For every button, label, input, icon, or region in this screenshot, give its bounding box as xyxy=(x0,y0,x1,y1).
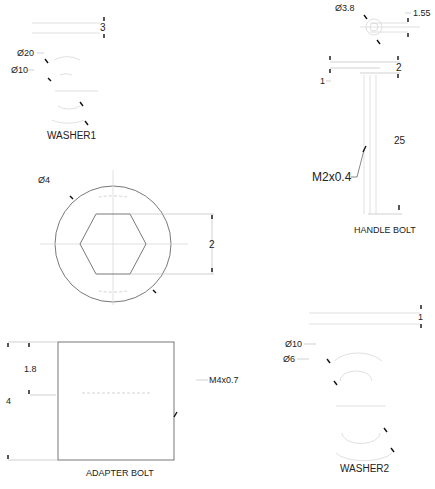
leader-arrow-icon xyxy=(174,412,177,417)
handle-bolt-head-height-dim: 2 xyxy=(396,62,402,73)
handle-bolt-thread-callout: M2x0.4 xyxy=(312,170,352,184)
handle-bolt-length-dim: 25 xyxy=(394,135,406,146)
dim-arrow-icon xyxy=(153,290,156,293)
dim-arrow-icon xyxy=(391,448,394,452)
washer2-thickness-dim: 1 xyxy=(418,312,423,322)
dim-arrow-icon xyxy=(334,381,337,385)
adapter-bolt-title: ADAPTER BOLT xyxy=(86,468,154,478)
adapter-bolt-thread-callout: M4x0.7 xyxy=(209,375,239,385)
handle-bolt-title: HANDLE BOLT xyxy=(354,225,416,235)
washer2-title: WASHER2 xyxy=(340,463,390,474)
hex-head-view: Ø4 2 xyxy=(38,170,215,305)
washer1-thickness-dim: 3 xyxy=(100,22,106,33)
leader-arrow-icon xyxy=(363,146,366,152)
adapter-bolt-height-dim: 4 xyxy=(6,396,11,406)
dim-arrow-icon xyxy=(45,59,48,63)
dim-arrow-icon xyxy=(364,15,367,19)
washer1-outer-diameter-dim: Ø20 xyxy=(17,48,34,58)
adapter-bolt-thread-depth-dim: 1.8 xyxy=(24,364,37,374)
washer2-inner-diameter-dim: Ø6 xyxy=(283,354,295,364)
washer1-inner-diameter-dim: Ø10 xyxy=(11,65,28,75)
handle-bolt-view: Ø3.8 1.55 2 1 25 M2x0.4 HANDLE BOLT xyxy=(312,3,431,235)
adapter-bolt-view: 1.8 4 M4x0.7 ADAPTER BOLT xyxy=(6,342,239,478)
dim-arrow-icon xyxy=(327,359,330,363)
washer1-view: 3 Ø20 Ø10 WASHER1 xyxy=(11,17,106,141)
washer2-view: 1 Ø10 Ø6 WASHER2 xyxy=(283,305,423,474)
handle-bolt-head-offset-dim: 1.55 xyxy=(413,8,431,18)
washer1-title: WASHER1 xyxy=(47,130,97,141)
dim-arrow-icon xyxy=(48,78,51,81)
hex-head-outer-diameter-dim: Ø4 xyxy=(38,175,50,185)
dim-arrow-icon xyxy=(70,196,73,199)
handle-bolt-step-dim: 1 xyxy=(320,76,325,86)
dim-arrow-icon xyxy=(377,40,380,44)
dim-arrow-icon xyxy=(384,428,387,432)
technical-drawing-canvas: 3 Ø20 Ø10 WASHER1 Ø3.8 1.55 xyxy=(0,0,435,489)
dim-arrow-icon xyxy=(80,102,83,106)
dim-arrow-icon xyxy=(85,121,88,125)
handle-bolt-head-diameter-dim: Ø3.8 xyxy=(335,3,355,13)
washer2-outer-diameter-dim: Ø10 xyxy=(285,339,302,349)
hex-across-flats-dim: 2 xyxy=(209,239,215,250)
